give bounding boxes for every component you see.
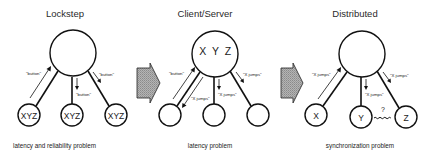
panel-lockstep: Lockstep "button" "button" "button" XYZ … — [13, 8, 127, 150]
architecture-diagram: Lockstep "button" "button" "button" XYZ … — [0, 0, 430, 161]
panel-distributed: Distributed "X jumps" "X jumps" "X jumps… — [305, 8, 417, 150]
node-label: XYZ — [64, 111, 81, 121]
transition-arrow-icon — [281, 63, 303, 103]
transition-arrow-icon — [137, 63, 160, 103]
panel-client-server: Client/Server "button" "X jumps" "X jump… — [159, 8, 269, 150]
node-label: Y — [358, 113, 364, 123]
panel-caption: latency and reliability problem — [13, 142, 96, 150]
sync-question-label: ? — [381, 106, 385, 113]
message-label: "button" — [99, 72, 114, 77]
message-label: "X jumps" — [243, 72, 262, 77]
central-node — [50, 30, 96, 76]
link-left — [323, 72, 347, 106]
panel-title: Distributed — [332, 8, 377, 19]
client-node — [203, 104, 225, 126]
panel-title: Client/Server — [178, 8, 233, 19]
node-label: XYZ — [21, 111, 38, 121]
node-label: Z — [403, 113, 408, 123]
message-label: "button" — [26, 71, 41, 76]
client-node — [247, 104, 269, 126]
message-label: "X jumps" — [218, 92, 237, 97]
message-label: "X jumps" — [390, 73, 409, 78]
link-left — [36, 71, 58, 106]
panel-title: Lockstep — [46, 8, 84, 19]
node-label: XYZ — [108, 111, 125, 121]
message-label: "X jumps" — [312, 72, 331, 77]
server-state-label: X Y Z — [199, 45, 232, 57]
message-label: "X jumps" — [365, 92, 384, 97]
message-label: "X jumps" — [191, 96, 210, 101]
central-node — [339, 31, 385, 77]
message-arrow-down-icon — [364, 79, 368, 90]
client-node — [159, 104, 181, 126]
node-label: X — [313, 111, 319, 121]
message-arrow-down-icon — [217, 79, 221, 90]
message-arrow-down-icon — [75, 78, 79, 90]
message-label: "button" — [76, 92, 91, 97]
sync-wave-icon — [374, 117, 391, 118]
panel-caption: latency problem — [188, 142, 232, 150]
panel-caption: synchronization problem — [326, 142, 394, 150]
message-label: "button" — [169, 71, 184, 76]
